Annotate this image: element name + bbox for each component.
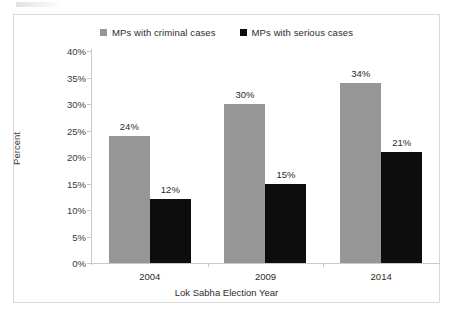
y-axis-ticks: 0%5%10%15%20%25%30%35%40% [14, 15, 86, 304]
legend-entry-criminal: MPs with criminal cases [100, 27, 216, 38]
bar-value-label: 15% [276, 169, 295, 180]
legend-label-criminal: MPs with criminal cases [112, 27, 216, 38]
legend-label-serious: MPs with serious cases [252, 27, 353, 38]
bar-group-bars: 24%12% [92, 51, 208, 263]
y-tick-mark [87, 184, 91, 185]
legend-swatch-criminal-icon [100, 29, 107, 36]
x-axis-line [91, 263, 440, 264]
plot-area: 24%12%30%15%34%21% [92, 51, 439, 263]
y-tick-label: 30% [28, 99, 86, 110]
bar-group: 34%21% [323, 51, 439, 263]
y-tick-mark [87, 157, 91, 158]
y-tick-mark [87, 131, 91, 132]
bar-group: 30%15% [208, 51, 324, 263]
y-tick-mark [87, 237, 91, 238]
bar-value-label: 24% [120, 121, 139, 132]
bar-2014-serious[interactable]: 21% [381, 152, 422, 263]
bar-value-label: 34% [351, 68, 370, 79]
y-tick-label: 20% [28, 152, 86, 163]
chart-figure: MPs with criminal cases MPs with serious… [13, 14, 440, 303]
legend-swatch-serious-icon [240, 29, 247, 36]
bar-2004-serious[interactable]: 12% [150, 199, 191, 263]
y-tick-label: 25% [28, 125, 86, 136]
bar-value-label: 21% [392, 137, 411, 148]
x-tick-mark [323, 263, 324, 267]
y-tick-mark [87, 263, 91, 264]
y-tick-mark [87, 210, 91, 211]
y-tick-label: 5% [28, 231, 86, 242]
y-tick-label: 40% [28, 46, 86, 57]
x-axis-title: Lok Sabha Election Year [14, 287, 439, 298]
bar-2009-serious[interactable]: 15% [265, 184, 306, 264]
x-tick-label-2014: 2014 [371, 271, 392, 282]
y-tick-mark [87, 78, 91, 79]
legend-entry-serious: MPs with serious cases [240, 27, 353, 38]
bar-value-label: 12% [161, 184, 180, 195]
bar-group-bars: 30%15% [208, 51, 324, 263]
bar-value-label: 30% [235, 89, 254, 100]
y-tick-mark [87, 51, 91, 52]
bar-2014-criminal[interactable]: 34% [340, 83, 381, 263]
x-tick-label-2009: 2009 [255, 271, 276, 282]
y-tick-label: 0% [28, 258, 86, 269]
y-tick-label: 15% [28, 178, 86, 189]
bar-group: 24%12% [92, 51, 208, 263]
y-tick-label: 35% [28, 72, 86, 83]
x-tick-mark [208, 263, 209, 267]
bar-group-bars: 34%21% [323, 51, 439, 263]
y-axis-title: Percent [11, 132, 22, 165]
bar-2004-criminal[interactable]: 24% [109, 136, 150, 263]
bar-2009-criminal[interactable]: 30% [224, 104, 265, 263]
scan-artifact [16, 2, 60, 7]
y-tick-label: 10% [28, 205, 86, 216]
y-tick-mark [87, 104, 91, 105]
x-tick-label-2004: 2004 [139, 271, 160, 282]
